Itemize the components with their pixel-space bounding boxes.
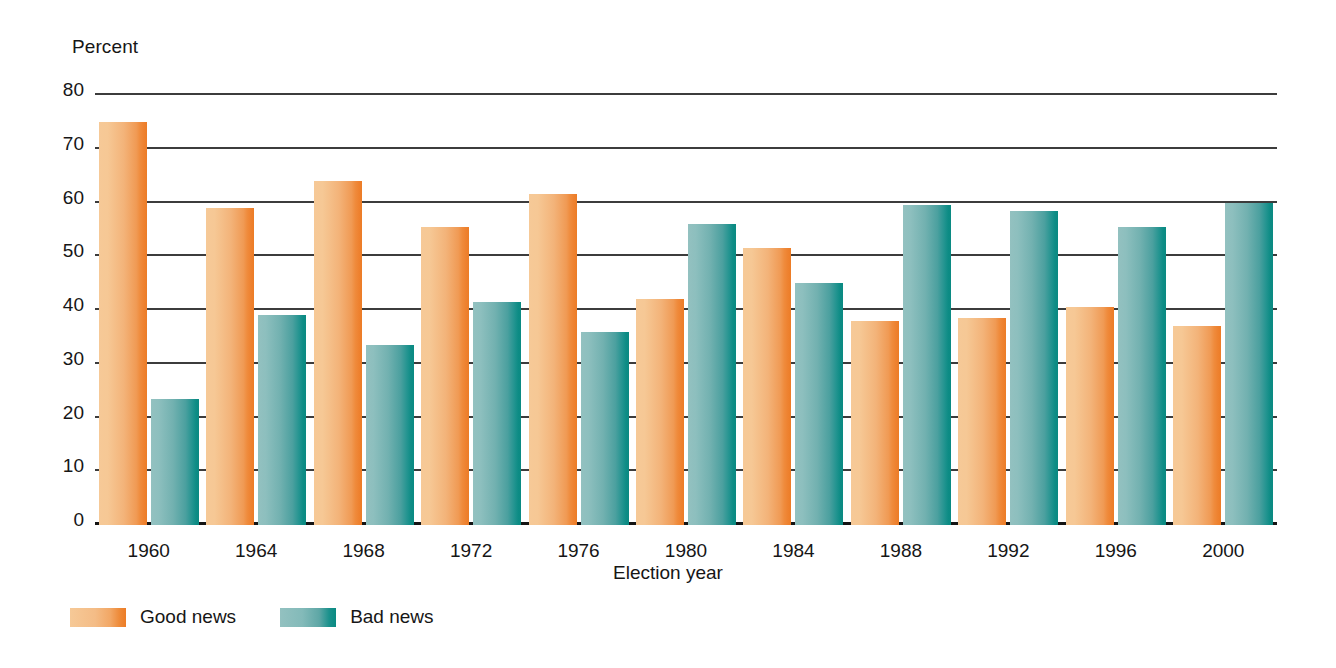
bar-group: 1996: [1066, 95, 1166, 525]
bar-group: 1988: [851, 95, 951, 525]
y-tick-label: 30: [63, 348, 84, 370]
y-tick-label: 10: [63, 455, 84, 477]
bar-bad-news: [903, 205, 951, 525]
bar-bad-news: [1118, 227, 1166, 525]
y-tick-label: 40: [63, 294, 84, 316]
x-tick-label: 1976: [529, 540, 629, 562]
x-axis-title: Election year: [0, 562, 1336, 584]
x-tick-label: 2000: [1173, 540, 1273, 562]
bar-bad-news: [366, 345, 414, 525]
y-tick-label: 20: [63, 402, 84, 424]
legend-swatch-bad-news-icon: [280, 608, 336, 627]
y-axis-title: Percent: [72, 36, 138, 58]
bar-good-news: [851, 321, 899, 525]
bar-bad-news: [258, 315, 306, 525]
bar-bad-news: [581, 332, 629, 526]
bar-bad-news: [688, 224, 736, 525]
bar-good-news: [99, 122, 147, 525]
x-tick-label: 1980: [636, 540, 736, 562]
legend-item-good-news: Good news: [70, 606, 236, 628]
bar-group: 1972: [421, 95, 521, 525]
bar-good-news: [743, 248, 791, 525]
bar-group: 1980: [636, 95, 736, 525]
bar-good-news: [314, 181, 362, 525]
bar-good-news: [206, 208, 254, 525]
bar-bad-news: [795, 283, 843, 525]
bar-group: 1964: [206, 95, 306, 525]
y-tick-label: 70: [63, 133, 84, 155]
x-tick-label: 1992: [958, 540, 1058, 562]
bar-good-news: [529, 194, 577, 525]
x-tick-label: 1968: [314, 540, 414, 562]
legend-item-bad-news: Bad news: [280, 606, 433, 628]
bar-group: 1960: [99, 95, 199, 525]
bar-good-news: [1173, 326, 1221, 525]
y-tick-label: 50: [63, 240, 84, 262]
bar-good-news: [636, 299, 684, 525]
bar-group: 1976: [529, 95, 629, 525]
y-tick-label: 0: [73, 509, 84, 531]
chart-legend: Good news Bad news: [70, 606, 434, 628]
bar-group: 1968: [314, 95, 414, 525]
legend-label-good-news: Good news: [140, 606, 236, 628]
x-tick-label: 1972: [421, 540, 521, 562]
bar-bad-news: [1225, 203, 1273, 526]
bar-group: 1984: [743, 95, 843, 525]
legend-label-bad-news: Bad news: [350, 606, 433, 628]
bars-layer: 1960196419681972197619801984198819921996…: [95, 95, 1277, 525]
x-tick-label: 1984: [743, 540, 843, 562]
bar-bad-news: [473, 302, 521, 525]
y-tick-label: 60: [63, 187, 84, 209]
x-tick-label: 1964: [206, 540, 306, 562]
bar-group: 1992: [958, 95, 1058, 525]
bar-bad-news: [1010, 211, 1058, 525]
plot-area: 80706050403020100 1960196419681972197619…: [95, 95, 1277, 525]
bar-good-news: [421, 227, 469, 525]
legend-swatch-good-news-icon: [70, 608, 126, 627]
x-tick-label: 1960: [99, 540, 199, 562]
bar-chart-figure: Percent 80706050403020100 19601964196819…: [0, 0, 1336, 668]
x-tick-label: 1988: [851, 540, 951, 562]
bar-group: 2000: [1173, 95, 1273, 525]
bar-good-news: [958, 318, 1006, 525]
bar-bad-news: [151, 399, 199, 525]
y-tick-label: 80: [63, 79, 84, 101]
x-tick-label: 1996: [1066, 540, 1166, 562]
bar-good-news: [1066, 307, 1114, 525]
